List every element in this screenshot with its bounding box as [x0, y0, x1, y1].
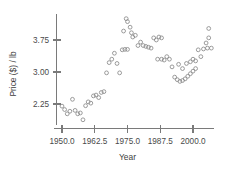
x-axis-tick-label: 1962.5 [82, 137, 107, 146]
data-point [185, 62, 189, 66]
x-axis-tick-label: 2000.0 [180, 137, 205, 146]
data-point [128, 25, 132, 29]
x-axis-tick-label: 1950.0 [49, 137, 74, 146]
scatter-plot-figure: 2.253.003.751950.01962.51975.01987.52000… [0, 0, 231, 170]
data-point [84, 104, 88, 108]
data-point [107, 61, 111, 65]
y-axis-tick-label: 2.25 [33, 100, 49, 109]
data-point [110, 57, 114, 61]
data-point [202, 47, 206, 51]
data-point [105, 71, 109, 75]
data-point [207, 36, 211, 40]
axis-labels-layer: 2.253.003.751950.01962.51975.01987.52000… [8, 36, 206, 162]
data-point [156, 57, 160, 61]
data-point [73, 109, 77, 113]
data-point [199, 55, 203, 59]
data-point [122, 29, 126, 33]
data-point [118, 71, 122, 75]
data-point [63, 108, 67, 112]
data-point [71, 97, 75, 101]
data-point [130, 31, 134, 35]
data-point [60, 104, 64, 108]
data-point [139, 40, 143, 44]
y-axis-title: Price ($) / lb [8, 51, 18, 96]
data-point [115, 62, 119, 66]
data-point [206, 46, 210, 50]
data-point [204, 41, 208, 45]
data-point [207, 27, 211, 31]
data-point [168, 57, 172, 61]
x-axis-title: Year [119, 152, 136, 162]
data-point [196, 48, 200, 52]
y-axis-tick-label: 3.75 [33, 36, 49, 45]
x-axis-tick-label: 1987.5 [148, 137, 173, 146]
data-point [68, 109, 72, 113]
data-point [81, 118, 85, 122]
data-point [181, 67, 185, 71]
data-point [113, 51, 117, 55]
data-point [177, 62, 181, 66]
data-point [126, 47, 130, 51]
data-point [170, 65, 174, 69]
data-point [136, 44, 140, 48]
data-points-layer [60, 17, 213, 122]
price-vs-year-scatter-chart: 2.253.003.751950.01962.51975.01987.52000… [0, 0, 231, 170]
data-point [194, 67, 198, 71]
x-axis-tick-label: 1975.0 [115, 137, 140, 146]
y-axis-tick-label: 3.00 [33, 68, 49, 77]
data-point [209, 46, 213, 50]
data-point [97, 96, 101, 100]
